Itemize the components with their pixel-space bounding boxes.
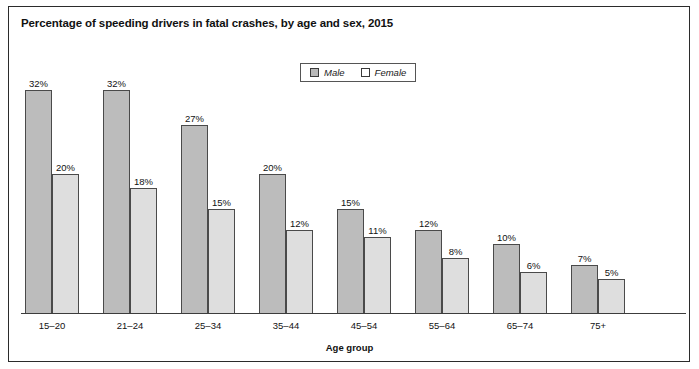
x-tick-label: 21–24 <box>117 320 143 331</box>
bar-male-15–20: 32% <box>25 90 52 314</box>
legend-item-female: Female <box>361 67 407 78</box>
bar-value-label: 6% <box>527 260 541 271</box>
bar-female-65–74: 6% <box>520 272 547 314</box>
bar-male-25–34: 27% <box>181 125 208 314</box>
x-tick-label: 55–64 <box>429 320 455 331</box>
bar-value-label: 7% <box>578 253 592 264</box>
bar-female-45–54: 11% <box>364 237 391 314</box>
bar-group: 7%5% <box>571 90 625 314</box>
male-swatch-icon <box>310 68 319 77</box>
chart-legend: Male Female <box>300 63 416 82</box>
bar-female-25–34: 15% <box>208 209 235 314</box>
legend-label-female: Female <box>375 67 407 78</box>
bar-value-label: 12% <box>290 218 309 229</box>
female-swatch-icon <box>361 68 370 77</box>
x-axis-line <box>21 313 686 314</box>
bar-value-label: 10% <box>497 232 516 243</box>
bar-group: 12%8% <box>415 90 469 314</box>
bar-value-label: 15% <box>341 197 360 208</box>
bar-female-35–44: 12% <box>286 230 313 314</box>
bar-female-21–24: 18% <box>130 188 157 314</box>
bar-value-label: 20% <box>263 162 282 173</box>
bar-female-55–64: 8% <box>442 258 469 314</box>
x-tick-label: 75+ <box>590 320 606 331</box>
plot-area: 32%20%32%18%27%15%20%12%15%11%12%8%10%6%… <box>21 90 686 314</box>
bar-value-label: 18% <box>134 176 153 187</box>
bar-female-75+: 5% <box>598 279 625 314</box>
bar-value-label: 32% <box>29 78 48 89</box>
x-axis-title: Age group <box>0 342 699 353</box>
chart-title: Percentage of speeding drivers in fatal … <box>21 17 393 29</box>
x-tick-label: 25–34 <box>195 320 221 331</box>
legend-item-male: Male <box>310 67 345 78</box>
bar-value-label: 12% <box>419 218 438 229</box>
x-tick-label: 35–44 <box>273 320 299 331</box>
bar-male-35–44: 20% <box>259 174 286 314</box>
bar-value-label: 15% <box>212 197 231 208</box>
bar-male-21–24: 32% <box>103 90 130 314</box>
bar-group: 32%18% <box>103 90 157 314</box>
x-tick-label: 65–74 <box>507 320 533 331</box>
bar-group: 20%12% <box>259 90 313 314</box>
bar-male-75+: 7% <box>571 265 598 314</box>
bar-group: 15%11% <box>337 90 391 314</box>
bar-group: 32%20% <box>25 90 79 314</box>
bar-female-15–20: 20% <box>52 174 79 314</box>
bar-value-label: 27% <box>185 113 204 124</box>
x-tick-label: 45–54 <box>351 320 377 331</box>
bar-male-55–64: 12% <box>415 230 442 314</box>
legend-label-male: Male <box>324 67 345 78</box>
x-tick-label: 15–20 <box>39 320 65 331</box>
bar-value-label: 5% <box>605 267 619 278</box>
bar-value-label: 32% <box>107 78 126 89</box>
bar-group: 10%6% <box>493 90 547 314</box>
bar-male-45–54: 15% <box>337 209 364 314</box>
bar-male-65–74: 10% <box>493 244 520 314</box>
bar-value-label: 20% <box>56 162 75 173</box>
bar-group: 27%15% <box>181 90 235 314</box>
chart-screenshot: Percentage of speeding drivers in fatal … <box>0 0 699 369</box>
bar-value-label: 8% <box>449 246 463 257</box>
bar-value-label: 11% <box>368 225 386 236</box>
